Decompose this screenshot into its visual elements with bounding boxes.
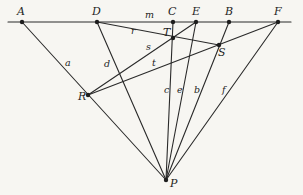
label-line-f: f: [221, 84, 227, 95]
point-p: [164, 178, 168, 182]
point-d: [95, 20, 99, 24]
line-t: [88, 22, 278, 95]
label-point-c: C: [168, 5, 177, 18]
point-e: [194, 20, 198, 24]
point-t: [171, 36, 175, 40]
label-point-a: A: [16, 5, 25, 18]
label-point-s: S: [218, 46, 226, 59]
label-point-p: P: [169, 177, 178, 190]
line-r: [97, 22, 219, 45]
point-a: [20, 20, 24, 24]
line-d: [97, 22, 166, 180]
point-b: [227, 20, 231, 24]
label-line-m: m: [145, 9, 154, 20]
label-line-r: r: [131, 25, 137, 36]
label-point-d: D: [91, 5, 101, 18]
label-point-r: R: [77, 90, 86, 103]
label-line-t: t: [152, 57, 156, 68]
label-line-a: a: [65, 57, 71, 68]
line-a: [22, 22, 166, 180]
line-c: [166, 22, 173, 180]
geometry-diagram: A D C E B F T S R P m r s t a d c e b f: [0, 0, 303, 195]
label-point-f: F: [273, 5, 282, 18]
point-c: [171, 20, 175, 24]
label-point-b: B: [224, 5, 233, 18]
point-r: [86, 93, 90, 97]
label-line-d: d: [104, 58, 110, 69]
point-f: [276, 20, 280, 24]
line-e: [166, 22, 196, 180]
label-point-e: E: [191, 5, 200, 18]
label-line-e: e: [177, 84, 183, 95]
label-line-b: b: [194, 84, 200, 95]
label-line-c: c: [164, 84, 170, 95]
label-line-s: s: [146, 41, 151, 52]
label-point-t: T: [163, 26, 172, 39]
